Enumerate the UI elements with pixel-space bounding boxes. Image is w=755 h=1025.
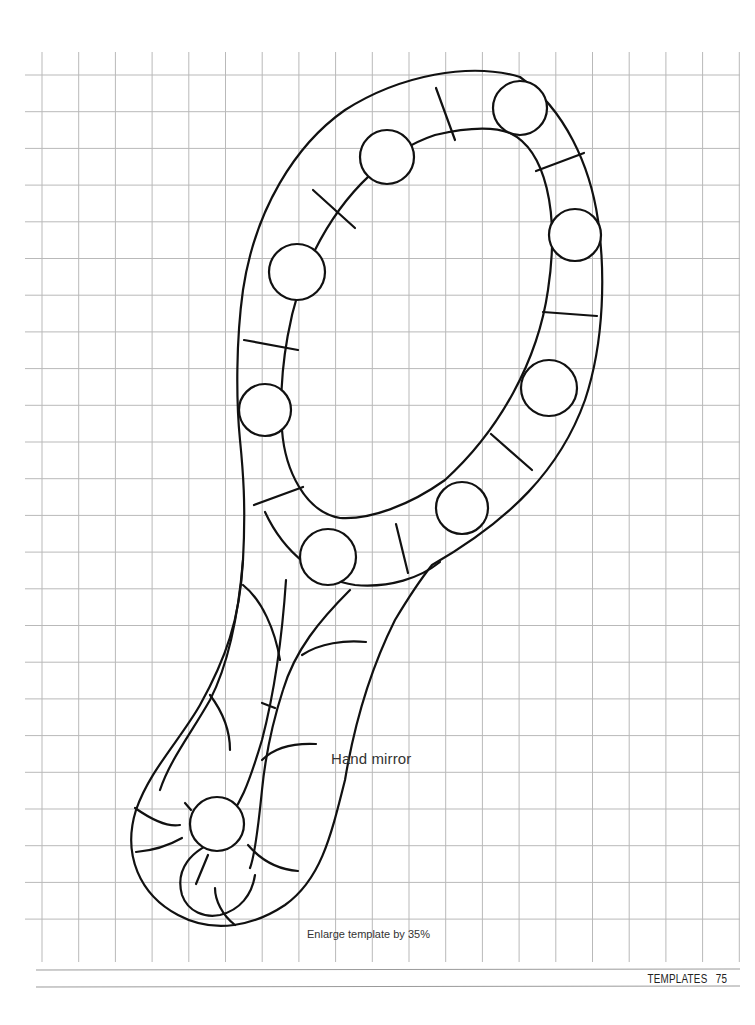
divider-right xyxy=(543,312,597,316)
running-footer: TEMPLATES75 xyxy=(647,972,727,986)
handle-divider-5 xyxy=(262,744,316,760)
handle-divider-1 xyxy=(243,585,280,660)
handle-divider-2 xyxy=(302,641,366,655)
jewel-circle xyxy=(436,482,488,534)
jewel-circle xyxy=(493,81,547,135)
footer-section-label: TEMPLATES xyxy=(647,972,707,986)
mirror-outer-frame xyxy=(131,71,602,926)
divider-left xyxy=(244,340,298,350)
jewel-circle xyxy=(239,384,291,436)
jewel-circle xyxy=(521,360,577,416)
divider-bottom xyxy=(396,524,408,573)
handle-divider-8 xyxy=(136,838,182,852)
template-drawing xyxy=(0,0,755,1025)
hand-mirror-outline xyxy=(131,71,602,926)
footer-rule-bottom xyxy=(36,986,740,987)
template-page: Hand mirror Enlarge template by 35% TEMP… xyxy=(0,0,755,1025)
jewel-circle xyxy=(360,130,414,184)
enlarge-instruction: Enlarge template by 35% xyxy=(307,928,430,940)
handle-divider-9 xyxy=(196,855,208,884)
handle-divider-6 xyxy=(135,808,180,825)
divider-upper-right xyxy=(536,153,584,171)
jewel-circle xyxy=(190,797,244,851)
page-number: 75 xyxy=(716,972,727,986)
footer-rule-top xyxy=(36,969,740,970)
jewel-circle xyxy=(269,244,325,300)
divider-lower-right xyxy=(491,434,532,470)
handle-left-inner xyxy=(218,580,286,830)
template-title: Hand mirror xyxy=(331,750,411,767)
jewel-circle xyxy=(549,209,601,261)
handle-divider-4 xyxy=(210,695,230,750)
jewel-circle xyxy=(300,529,356,585)
mirror-glass xyxy=(281,129,552,519)
handle-left-mid xyxy=(160,560,243,790)
divider-lower-left xyxy=(254,487,303,505)
